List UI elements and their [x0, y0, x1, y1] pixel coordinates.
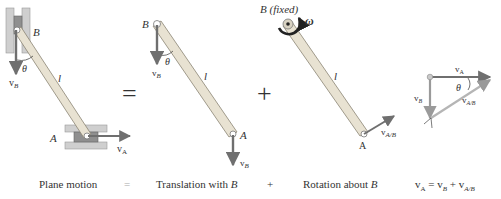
label-theta: θ	[456, 82, 461, 93]
caption-rotation-text: Rotation about	[303, 178, 371, 190]
label-length: l	[204, 70, 207, 82]
label-omega: ω	[305, 14, 314, 28]
label-a: A	[239, 129, 247, 141]
label-length: l	[334, 70, 337, 82]
pin-b-center	[286, 22, 290, 26]
caption-plane-motion: Plane motion	[39, 178, 97, 190]
caption-equation: vA = vB + vA/B	[415, 178, 475, 193]
caption-translation-var: B	[231, 178, 238, 190]
label-vb: vB	[9, 77, 19, 90]
label-vab: vA/B	[381, 127, 397, 139]
panel-vector-triangle: vA vB vA/B θ	[414, 64, 490, 128]
label-theta: θ	[22, 63, 27, 74]
caption-translation-text: Translation with	[156, 178, 231, 190]
caption-equals: =	[124, 178, 130, 190]
label-vab: vA/B	[462, 95, 476, 106]
vector-origin-dot	[427, 74, 433, 80]
caption-plus: +	[267, 178, 273, 190]
panel-translation: B A l θ vB vB	[142, 18, 250, 170]
equals-operator: =	[122, 79, 137, 108]
rod-bar	[283, 22, 368, 136]
label-va: vA	[455, 64, 465, 75]
kinematics-diagram: B A l θ vB vA = B A l θ vB vB + B (fixed…	[0, 0, 501, 199]
label-vb-top: vB	[152, 68, 162, 80]
rod-bar	[153, 21, 237, 137]
panel-rotation: B (fixed) ω l A vA/B	[260, 3, 397, 151]
label-a: A	[359, 140, 367, 151]
label-vb-bottom: vB	[240, 158, 250, 170]
rod-bar	[14, 27, 91, 138]
caption-rotation: Rotation about B	[303, 178, 378, 190]
label-b: B	[142, 18, 149, 30]
label-a: A	[49, 132, 57, 144]
label-theta: θ	[165, 56, 170, 67]
label-b: B	[33, 26, 40, 38]
tail-mark	[424, 118, 432, 128]
label-va: vA	[117, 143, 127, 156]
plus-operator: +	[257, 79, 272, 108]
guide-left-wall	[6, 8, 14, 53]
theta-arc	[468, 78, 470, 90]
guide-bottom-wall	[65, 142, 107, 149]
label-b-fixed: B (fixed)	[260, 3, 299, 16]
label-length: l	[58, 72, 61, 84]
caption-rotation-var: B	[371, 178, 378, 190]
caption-translation: Translation with B	[156, 178, 238, 190]
panel-plane-motion: B A l θ vB vA	[6, 8, 130, 156]
label-vb: vB	[414, 93, 423, 104]
